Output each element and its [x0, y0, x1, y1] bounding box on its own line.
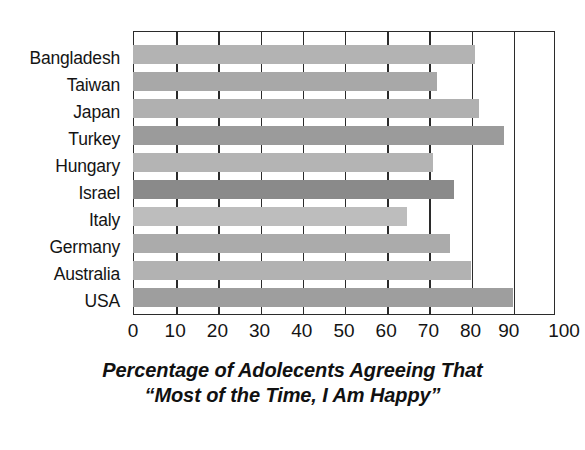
chart-caption: Percentage of Adolecents Agreeing That “…: [0, 358, 585, 408]
x-tick-label-0: 0: [128, 320, 139, 342]
bar-row: [133, 234, 450, 253]
bar-row: [133, 45, 475, 64]
bar-row: [133, 153, 433, 172]
x-tick-label-60: 60: [376, 320, 397, 342]
caption-line-1: Percentage of Adolecents Agreeing That: [0, 358, 585, 383]
bar-bangladesh: [133, 45, 475, 64]
category-label: Taiwan: [0, 72, 126, 99]
bar-row: [133, 207, 407, 226]
category-axis-labels: BangladeshTaiwanJapanTurkeyHungaryIsrael…: [0, 45, 126, 315]
category-label: Italy: [0, 207, 126, 234]
bar-japan: [133, 99, 479, 118]
bar-taiwan: [133, 72, 437, 91]
bar-row: [133, 126, 504, 145]
bar-australia: [133, 261, 471, 280]
bar-hungary: [133, 153, 433, 172]
bar-germany: [133, 234, 450, 253]
category-label: Australia: [0, 261, 126, 288]
category-label: Turkey: [0, 126, 126, 153]
bar-usa: [133, 288, 513, 307]
bar-row: [133, 72, 437, 91]
x-tick-label-20: 20: [207, 320, 228, 342]
category-label: Israel: [0, 180, 126, 207]
x-tick-label-80: 80: [460, 320, 481, 342]
x-tick-label-100: 100: [548, 320, 580, 342]
bars-layer: [133, 31, 555, 315]
x-tick-label-50: 50: [333, 320, 354, 342]
category-label: Hungary: [0, 153, 126, 180]
bar-turkey: [133, 126, 504, 145]
bar-row: [133, 261, 471, 280]
category-label: Japan: [0, 99, 126, 126]
bar-israel: [133, 180, 454, 199]
value-axis-ticks: 0102030405060708090100: [0, 320, 585, 348]
x-tick-label-30: 30: [249, 320, 270, 342]
x-tick-label-90: 90: [498, 320, 519, 342]
x-tick-label-10: 10: [165, 320, 186, 342]
category-label: Bangladesh: [0, 45, 126, 72]
bar-italy: [133, 207, 407, 226]
bar-row: [133, 99, 479, 118]
category-label: USA: [0, 288, 126, 315]
category-label: Germany: [0, 234, 126, 261]
bar-row: [133, 288, 513, 307]
bar-chart: BangladeshTaiwanJapanTurkeyHungaryIsrael…: [0, 0, 585, 450]
bar-row: [133, 180, 454, 199]
x-tick-label-40: 40: [291, 320, 312, 342]
x-tick-label-70: 70: [418, 320, 439, 342]
caption-line-2: “Most of the Time, I Am Happy”: [0, 383, 585, 408]
